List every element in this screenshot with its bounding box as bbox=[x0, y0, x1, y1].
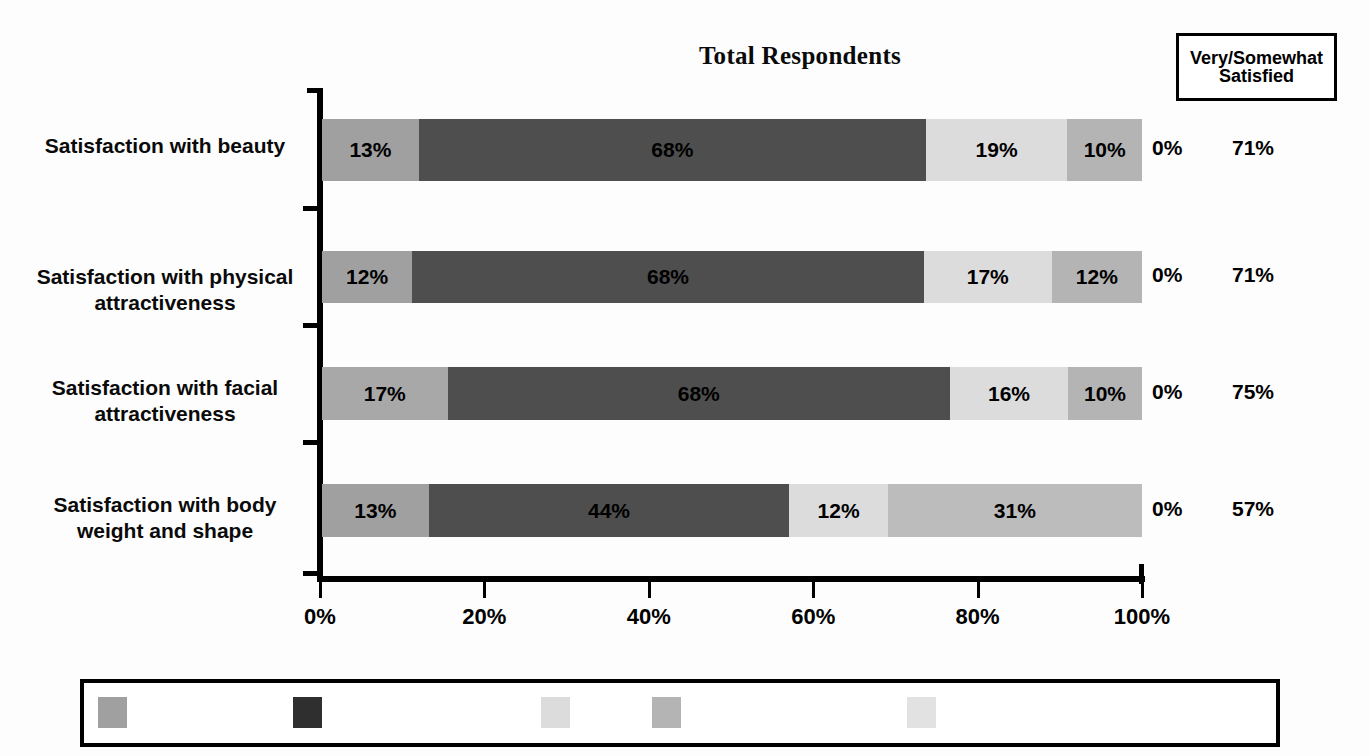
bar-segment-4: 10% bbox=[1068, 367, 1142, 420]
bar-row: 13%44%12%31% bbox=[322, 484, 1142, 537]
bar-segment-1: 12% bbox=[322, 251, 412, 303]
bar-segment-2: 68% bbox=[419, 119, 926, 181]
chart-title: Total Respondents bbox=[600, 42, 1000, 70]
x-axis-tick-60 bbox=[812, 582, 815, 598]
bar-segment-1: 13% bbox=[322, 119, 419, 181]
y-axis-tick-4 bbox=[303, 571, 319, 576]
legend-swatch-3 bbox=[541, 697, 570, 728]
zero-value-4: 0% bbox=[1152, 497, 1182, 521]
bar-segment-4: 10% bbox=[1067, 119, 1142, 181]
legend-swatch-2 bbox=[293, 697, 322, 728]
satisfied-header-line1: Very/Somewhat bbox=[1190, 48, 1323, 68]
legend-box bbox=[80, 679, 1280, 747]
bar-row: 13%68%19%10% bbox=[322, 119, 1142, 181]
x-axis-tick-100 bbox=[1141, 582, 1144, 598]
x-axis-tick-20 bbox=[483, 582, 486, 598]
satisfied-value-4: 57% bbox=[1232, 497, 1274, 521]
x-axis-line bbox=[317, 576, 1145, 582]
category-label-4: Satisfaction with bodyweight and shape bbox=[15, 492, 315, 543]
bar-segment-2: 68% bbox=[412, 251, 924, 303]
x-axis-label-0: 0% bbox=[275, 604, 365, 630]
bar-segment-4: 12% bbox=[1052, 251, 1142, 303]
category-label-line2: weight and shape bbox=[77, 519, 253, 542]
category-label-line1: Satisfaction with facial bbox=[52, 376, 278, 399]
category-label-line1: Satisfaction with body bbox=[54, 493, 277, 516]
zero-value-3: 0% bbox=[1152, 380, 1182, 404]
x-axis-label-100: 100% bbox=[1097, 604, 1187, 630]
satisfied-value-2: 71% bbox=[1232, 263, 1274, 287]
legend-swatch-5 bbox=[907, 697, 936, 728]
bar-segment-3: 16% bbox=[950, 367, 1068, 420]
x-axis-label-80: 80% bbox=[933, 604, 1023, 630]
category-label-line1: Satisfaction with beauty bbox=[45, 134, 285, 157]
bar-segment-4: 31% bbox=[888, 484, 1142, 537]
bar-segment-3: 12% bbox=[789, 484, 887, 537]
x-axis-label-60: 60% bbox=[768, 604, 858, 630]
zero-value-1: 0% bbox=[1152, 136, 1182, 160]
satisfied-value-3: 75% bbox=[1232, 380, 1274, 404]
bar-segment-3: 19% bbox=[926, 119, 1068, 181]
bar-row: 17%68%16%10% bbox=[322, 367, 1142, 420]
y-axis-tick-3 bbox=[303, 440, 319, 445]
bar-segment-2: 68% bbox=[448, 367, 950, 420]
bar-segment-2: 44% bbox=[429, 484, 790, 537]
category-label-1: Satisfaction with beauty bbox=[15, 133, 315, 159]
bar-segment-1: 13% bbox=[322, 484, 429, 537]
x-axis-right-cap bbox=[1139, 564, 1144, 584]
category-label-line2: attractiveness bbox=[94, 402, 235, 425]
satisfied-header-line2: Satisfied bbox=[1190, 67, 1323, 85]
y-axis-tick-2 bbox=[303, 323, 319, 328]
category-label-3: Satisfaction with facialattractiveness bbox=[15, 375, 315, 426]
satisfied-value-1: 71% bbox=[1232, 136, 1274, 160]
category-label-2: Satisfaction with physicalattractiveness bbox=[15, 264, 315, 315]
legend-swatch-4 bbox=[652, 697, 681, 728]
category-label-line2: attractiveness bbox=[94, 291, 235, 314]
category-label-line1: Satisfaction with physical bbox=[37, 265, 294, 288]
bar-row: 12%68%17%12% bbox=[322, 251, 1142, 303]
y-axis-top-cap bbox=[307, 88, 323, 93]
satisfied-header-text: Very/Somewhat Satisfied bbox=[1190, 49, 1323, 86]
x-axis-label-20: 20% bbox=[439, 604, 529, 630]
x-axis-tick-40 bbox=[648, 582, 651, 598]
chart-canvas: Total Respondents Very/Somewhat Satisfie… bbox=[0, 0, 1370, 756]
legend-swatch-1 bbox=[98, 697, 127, 728]
bar-segment-1: 17% bbox=[322, 367, 448, 420]
x-axis-tick-80 bbox=[977, 582, 980, 598]
x-axis-label-40: 40% bbox=[604, 604, 694, 630]
zero-value-2: 0% bbox=[1152, 263, 1182, 287]
x-axis-tick-0 bbox=[319, 582, 322, 598]
satisfied-header-box: Very/Somewhat Satisfied bbox=[1176, 33, 1337, 101]
bar-segment-3: 17% bbox=[924, 251, 1052, 303]
y-axis-tick-1 bbox=[303, 206, 319, 211]
